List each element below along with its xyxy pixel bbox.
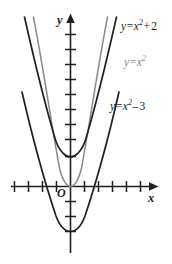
y-axis-arrowhead — [66, 14, 74, 24]
curve-label-constant: 3 — [139, 100, 146, 112]
coordinate-plane-svg — [0, 0, 172, 264]
curve-label-equals: = — [129, 56, 137, 68]
curve-label-y-equals-x-squared-plus-2: y=x2+2 — [121, 19, 158, 32]
curve-label-y-equals-x-squared-minus-3: y=x2–3 — [110, 99, 146, 112]
curve-label-operator: + — [143, 20, 151, 32]
parabola-family-figure: y=x2+2 y=x2 y=x2–3 y x O — [0, 0, 172, 264]
x-axis-arrowhead — [149, 182, 159, 190]
origin-label: O — [57, 187, 66, 199]
curve-label-equals: = — [115, 100, 123, 112]
curve-label-equals: = — [126, 20, 134, 32]
curve-label-operator: – — [132, 100, 139, 112]
x-axis-label: x — [148, 192, 154, 205]
curve-label-exponent: 2 — [142, 54, 146, 63]
y-axis-label: y — [57, 14, 63, 27]
curve-label-y-equals-x-squared: y=x2 — [124, 55, 146, 68]
curve-label-constant: 2 — [151, 20, 158, 32]
